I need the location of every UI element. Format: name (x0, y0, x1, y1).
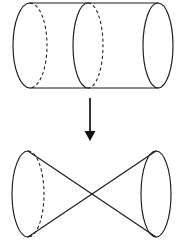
cylinder-left-end-solid-arc (13, 3, 30, 88)
arrow-head (85, 131, 96, 141)
cylinder-cross-section-solid-arc (73, 3, 88, 88)
cylinder-shape (13, 3, 173, 88)
cone-left-base-dashed-arc (28, 151, 44, 237)
cylinder-left-end-dashed-arc (30, 3, 47, 88)
cylinder-cross-section-dashed-arc (88, 3, 103, 88)
geometry-diagram (0, 0, 181, 250)
cone-right-base-ellipse (141, 151, 171, 237)
cone-left-base-solid-arc (12, 151, 28, 237)
downward-arrow-icon (85, 98, 96, 141)
double-cone-shape (12, 151, 171, 237)
cylinder-right-end-ellipse (143, 3, 173, 88)
figure-caption (0, 243, 181, 250)
figure-container (0, 0, 181, 250)
